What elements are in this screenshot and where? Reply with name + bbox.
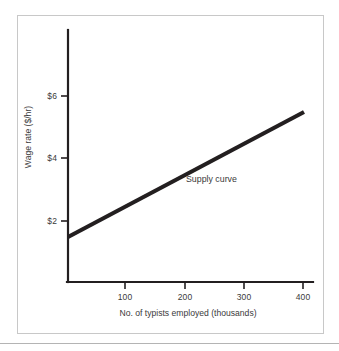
x-tick-label-400: 400 [296, 292, 310, 302]
supply-curve-annotation: Supply curve [186, 174, 237, 184]
x-tick-label-200: 200 [178, 292, 192, 302]
y-tick-label-2: $2 [34, 216, 57, 226]
bottom-divider [0, 343, 339, 344]
chart-plot-area [0, 0, 339, 351]
y-tick-label-4: $4 [34, 153, 57, 163]
y-axis-title: Wage rate ($/hr) [23, 90, 33, 184]
x-tick-label-300: 300 [237, 292, 251, 302]
y-tick-label-6: $6 [34, 91, 57, 101]
x-axis-title: No. of typists employed (thousands) [68, 308, 308, 318]
x-tick-label-100: 100 [118, 292, 132, 302]
